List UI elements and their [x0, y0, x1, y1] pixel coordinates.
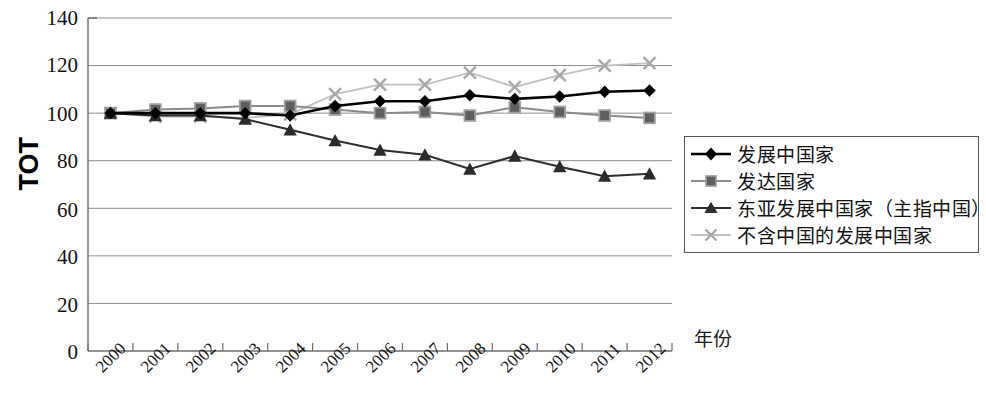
- marker-x-icon: [509, 81, 521, 93]
- marker-square-icon: [599, 110, 610, 121]
- marker-square-icon: [420, 107, 431, 118]
- legend-label-1: 发达国家: [733, 167, 815, 194]
- marker-square-icon: [644, 113, 655, 124]
- legend-item-east-asia-developing[interactable]: 东亚发展中国家（主指中国）: [689, 194, 974, 221]
- legend-marker-diamond-icon: [689, 144, 733, 164]
- data-series-layer: [104, 57, 656, 182]
- marker-triangle-icon: [508, 149, 521, 161]
- gridlines: [88, 18, 672, 303]
- legend-marker-square-icon: [689, 171, 733, 191]
- legend-label-3: 不含中国的发展中国家: [733, 221, 932, 248]
- legend-item-developed-countries[interactable]: 发达国家: [689, 167, 974, 194]
- legend-marker-x-icon: [689, 225, 733, 245]
- marker-diamond-icon: [643, 84, 655, 96]
- chart-figure: TOT 140 120 100 80 60 40 20 0 2000200120…: [0, 0, 986, 417]
- marker-diamond-icon: [598, 86, 610, 98]
- marker-square-icon: [464, 110, 475, 121]
- axis-lines: [88, 18, 672, 351]
- legend-item-developing-countries[interactable]: 发展中国家: [689, 140, 974, 167]
- marker-x-icon: [464, 67, 476, 79]
- legend-label-0: 发展中国家: [733, 140, 835, 167]
- marker-square-icon: [375, 108, 386, 119]
- marker-diamond-icon: [374, 95, 386, 107]
- marker-diamond-icon: [419, 95, 431, 107]
- legend-marker-triangle-icon: [689, 198, 733, 218]
- legend-label-2: 东亚发展中国家（主指中国）: [733, 194, 986, 221]
- x-axis-title: 年份: [694, 324, 732, 351]
- chart-legend: 发展中国家 发达国家 东亚发展中国家（主指中国）: [684, 136, 979, 253]
- legend-item-developing-excl-china[interactable]: 不含中国的发展中国家: [689, 221, 974, 248]
- marker-diamond-icon: [553, 90, 565, 102]
- marker-diamond-icon: [464, 89, 476, 101]
- marker-square-icon: [554, 107, 565, 118]
